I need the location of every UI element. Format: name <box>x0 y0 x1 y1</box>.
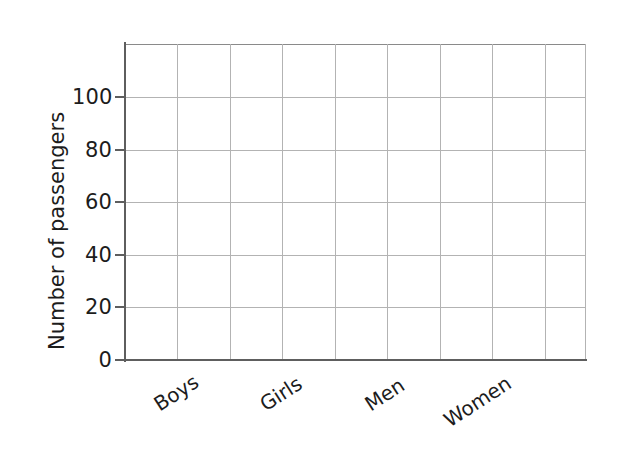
y-tick-mark <box>115 306 124 308</box>
horizontal-gridline <box>125 307 586 308</box>
y-tick-label-60: 60 <box>72 190 112 214</box>
y-tick-mark <box>115 149 124 151</box>
plot-top-edge <box>125 44 586 45</box>
y-tick-label-80: 80 <box>72 138 112 162</box>
x-axis-line <box>124 359 587 361</box>
y-tick-mark <box>115 359 124 361</box>
y-tick-label-40: 40 <box>72 243 112 267</box>
y-axis-line <box>124 42 126 362</box>
y-tick-label-0: 0 <box>72 348 112 372</box>
x-category-label-boys: Boys <box>151 371 202 414</box>
y-tick-label-20: 20 <box>72 295 112 319</box>
horizontal-gridline <box>125 97 586 98</box>
horizontal-gridline <box>125 255 586 256</box>
horizontal-gridline <box>125 150 586 151</box>
y-axis-title: Number of passengers <box>42 30 72 350</box>
y-tick-mark <box>115 254 124 256</box>
y-tick-mark <box>115 201 124 203</box>
x-category-label-women: Women <box>441 373 515 431</box>
plot-area <box>125 44 586 360</box>
bar-chart-figure: 100 80 60 40 20 0 Number of passengers B… <box>0 0 619 465</box>
x-category-label-girls: Girls <box>257 373 306 414</box>
horizontal-gridline <box>125 202 586 203</box>
y-tick-label-100: 100 <box>72 85 112 109</box>
x-category-label-men: Men <box>362 375 408 415</box>
y-tick-mark <box>115 96 124 98</box>
